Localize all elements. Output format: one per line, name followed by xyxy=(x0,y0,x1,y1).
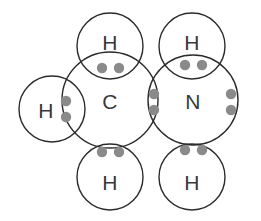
electron-dot-bond-pair-c-n-1 xyxy=(149,89,159,99)
electron-dot-bond-pair-c-h-left-2 xyxy=(61,112,71,122)
molecule-diagram: CNHHHHH xyxy=(0,0,261,221)
electron-pair-bond-pair-n-h-bottom xyxy=(180,145,207,155)
atom-label-hydrogen-top-right: H xyxy=(184,31,200,54)
electron-dot-bond-pair-n-h-top-2 xyxy=(197,60,207,70)
electron-dot-bond-pair-c-h-left-1 xyxy=(61,96,71,106)
electron-dot-bond-pair-c-h-bottom-1 xyxy=(97,147,107,157)
electron-dot-bond-pair-n-h-top-1 xyxy=(180,60,190,70)
atom-label-hydrogen-top-left: H xyxy=(102,31,118,54)
atom-label-group: CNHHHHH xyxy=(38,31,201,194)
electron-pair-bond-pair-n-h-top xyxy=(180,60,207,70)
electron-dot-bond-pair-c-h-bottom-2 xyxy=(114,147,124,157)
electron-pair-bond-pair-c-h-top xyxy=(97,63,124,73)
electron-dot-bond-pair-c-n-2 xyxy=(149,105,159,115)
atom-label-nitrogen: N xyxy=(185,90,201,113)
electron-dot-bond-pair-c-h-top-1 xyxy=(97,63,107,73)
electron-dot-bond-pair-c-h-top-2 xyxy=(114,63,124,73)
molecule-canvas: CNHHHHH xyxy=(0,0,261,221)
atom-label-hydrogen-left: H xyxy=(38,99,54,122)
atom-label-hydrogen-bottom-left: H xyxy=(102,171,118,194)
atom-label-carbon: C xyxy=(102,90,118,113)
electron-dot-bond-pair-n-h-bottom-1 xyxy=(180,145,190,155)
electron-dot-bond-pair-n-h-bottom-2 xyxy=(197,145,207,155)
atom-label-hydrogen-bottom-right: H xyxy=(184,171,200,194)
electron-pair-lone-pair-nitrogen xyxy=(226,89,236,115)
electron-dot-lone-pair-nitrogen-1 xyxy=(226,89,236,99)
electron-dot-lone-pair-nitrogen-2 xyxy=(226,105,236,115)
